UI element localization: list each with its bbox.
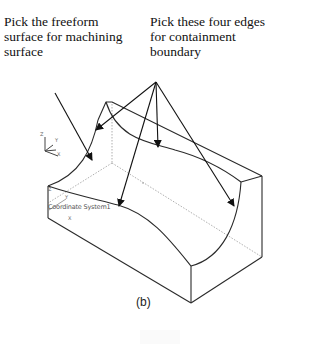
arrow-edge-right <box>156 82 234 206</box>
faint-bleed-text <box>140 330 180 344</box>
triad-y-label: Y <box>55 137 58 143</box>
annotation-arrows <box>55 82 234 206</box>
corner-z-label: Z <box>48 186 51 192</box>
origin-dot <box>142 182 144 184</box>
corner-y-label: Y <box>65 194 68 200</box>
arrow-freeform-surface <box>55 93 92 160</box>
triad-x-label: X <box>57 151 60 157</box>
figure-caption: (b) <box>136 295 151 309</box>
coordinate-system-label: Coordinate System1 <box>48 203 110 211</box>
arrow-edge-left <box>96 82 156 130</box>
hidden-edges <box>48 104 262 257</box>
arrow-edge-back <box>156 82 158 147</box>
triad-z-label: Z <box>40 131 43 137</box>
corner-x-label: X <box>68 215 71 221</box>
